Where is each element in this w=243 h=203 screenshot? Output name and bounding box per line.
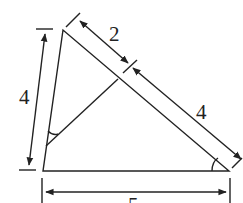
label-hyp-lower: 4 (196, 102, 207, 123)
label-left-side: 4 (19, 87, 30, 108)
hyp-upper-arrow (80, 21, 128, 63)
label-hyp-upper: 2 (109, 24, 120, 45)
cevian-line (46, 79, 118, 146)
angle-mark-right (212, 158, 218, 171)
label-base: 5 (128, 195, 139, 203)
triangle-diagram: 4 2 4 5 (0, 0, 243, 203)
hyp-lower-arrow (133, 68, 241, 159)
left-dimension-arrow (29, 34, 45, 165)
hyp-tick-bottom (232, 158, 242, 168)
hyp-tick-top (66, 13, 80, 27)
hyp-tick-mid (123, 60, 137, 73)
angle-mark-left (48, 131, 58, 135)
